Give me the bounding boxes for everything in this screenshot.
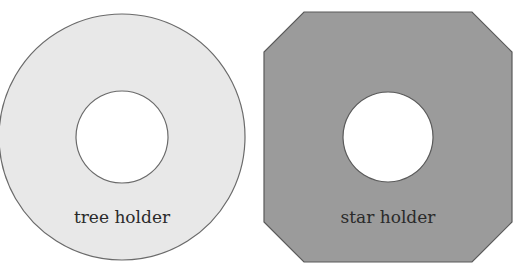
tree-holder-label: tree holder xyxy=(74,207,171,227)
diagram-canvas: tree holder star holder xyxy=(0,0,515,269)
star-holder: star holder xyxy=(264,12,512,262)
tree-holder: tree holder xyxy=(0,14,245,260)
star-holder-label: star holder xyxy=(341,207,437,227)
